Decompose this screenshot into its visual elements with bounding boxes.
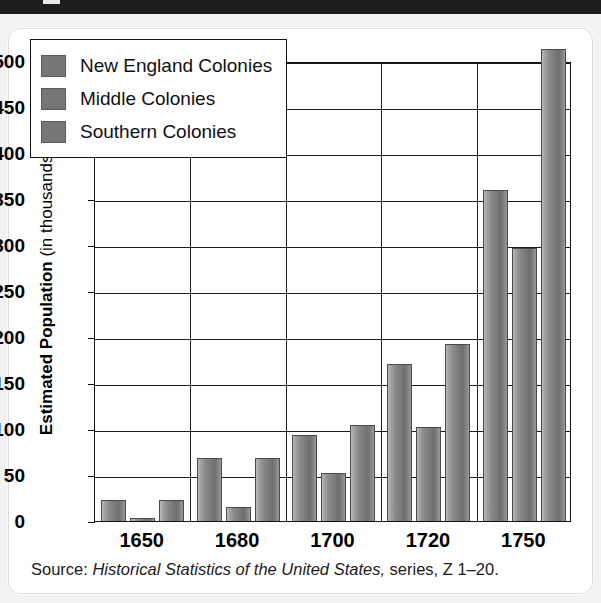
legend-label-new-england: New England Colonies [80,55,272,77]
y-tick-label-250: 250 [0,282,25,301]
y-tick-label-400: 400 [0,144,25,163]
bar [226,507,251,521]
figure-card: Estimated Population (in thousands) 0501… [8,28,593,594]
y-tick-label-500: 500 [0,52,25,71]
top-banner [0,0,601,14]
bar [512,248,537,521]
y-tick-label-0: 0 [0,512,25,531]
bar [483,190,508,521]
banner-tick-mark [43,0,60,4]
bar [541,49,566,521]
bar [197,458,222,521]
source-title: Historical Statistics of the United Stat… [92,560,385,578]
legend-label-middle: Middle Colonies [80,88,215,110]
bar-group-1720 [381,63,476,521]
y-tick-mark-250 [88,292,95,293]
y-tick-mark-350 [88,200,95,201]
y-tick-label-150: 150 [0,374,25,393]
y-tick-label-50: 50 [0,466,25,485]
y-tick-label-200: 200 [0,328,25,347]
legend-item: Southern Colonies [41,115,272,148]
y-tick-label-100: 100 [0,420,25,439]
y-tick-mark-50 [88,476,95,477]
bar [445,344,470,521]
y-tick-mark-150 [88,384,95,385]
y-tick-mark-200 [88,338,95,339]
legend-swatch-southern [41,121,66,143]
y-axis-title-light: (in thousands) [37,149,56,261]
bar-group-1700 [286,63,381,521]
bar [101,500,126,521]
legend-item: New England Colonies [41,49,272,82]
source-caption: Source: Historical Statistics of the Uni… [31,560,499,579]
source-prefix: Source: [31,560,92,578]
legend-swatch-middle [41,88,66,110]
y-tick-label-300: 300 [0,236,25,255]
legend-label-southern: Southern Colonies [80,121,236,143]
y-tick-label-350: 350 [0,190,25,209]
x-tick-label-1750: 1750 [463,529,583,552]
bar [159,500,184,521]
y-tick-mark-300 [88,246,95,247]
bar [321,473,346,521]
y-tick-mark-0 [88,522,95,523]
bar [292,435,317,521]
legend-item: Middle Colonies [41,82,272,115]
bar [387,364,412,521]
bar [255,458,280,521]
legend-swatch-new-england [41,55,66,77]
y-tick-label-450: 450 [0,98,25,117]
bar [350,425,375,521]
y-tick-mark-100 [88,430,95,431]
bar [130,518,155,521]
bar-group-1750 [477,63,572,521]
source-suffix: series, Z 1–20. [385,560,499,578]
bar [416,427,441,521]
y-axis-title-strong: Estimated Population [37,261,56,435]
legend: New England Colonies Middle Colonies Sou… [30,39,287,158]
